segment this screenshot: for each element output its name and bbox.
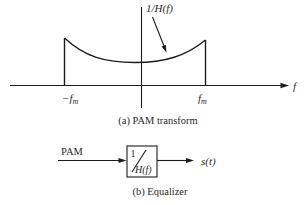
pos-fm-label: fm bbox=[198, 92, 207, 106]
curve-pointer-arrowhead-icon bbox=[162, 45, 167, 53]
block-numerator: 1 bbox=[131, 148, 136, 159]
caption-b: (b) Equalizer bbox=[132, 186, 188, 198]
freq-axis-arrowhead-icon bbox=[281, 83, 290, 89]
output-arrowhead-icon bbox=[186, 158, 194, 163]
pos-fm-sub: m bbox=[201, 97, 207, 106]
pam-transform-plot: f 1/H(f) −fm fm (a) PAM transform bbox=[10, 2, 298, 127]
neg-fm-sub: m bbox=[72, 97, 78, 106]
block-denominator: H(f) bbox=[134, 164, 152, 176]
input-arrowhead-icon bbox=[119, 158, 127, 163]
response-curve bbox=[65, 38, 206, 63]
curve-pointer-arrow bbox=[153, 17, 165, 46]
neg-fm-label: −fm bbox=[62, 92, 78, 106]
caption-a: (a) PAM transform bbox=[118, 115, 198, 127]
output-label: s(t) bbox=[201, 155, 216, 168]
input-label: PAM bbox=[61, 146, 83, 157]
equalizer-block-diagram: PAM 1 H(f) s(t) (b) Equalizer bbox=[58, 146, 216, 198]
freq-axis-label: f bbox=[293, 80, 298, 92]
curve-label: 1/H(f) bbox=[146, 2, 173, 15]
pam-equalizer-diagram: f 1/H(f) −fm fm (a) PAM transform PAM bbox=[0, 0, 308, 205]
figure: f 1/H(f) −fm fm (a) PAM transform PAM bbox=[0, 0, 308, 205]
